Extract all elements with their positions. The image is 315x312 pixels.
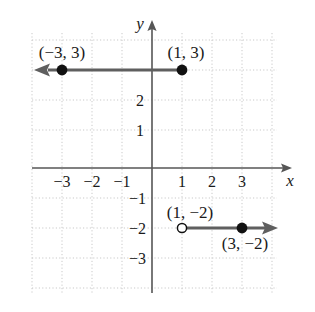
coordinate-plane-figure: x y −3 −2 −1 1 2 3 2 1 −1 −2 −3 (−3, 3) xyxy=(0,0,315,312)
x-tick-label-2: 2 xyxy=(208,173,216,190)
x-axis-label: x xyxy=(285,171,294,190)
x-tick-label-3: 3 xyxy=(238,173,246,190)
point-label-3-neg2: (3, −2) xyxy=(222,234,268,253)
point-label-1-neg2: (1, −2) xyxy=(167,203,213,222)
point-label-neg3-3: (−3, 3) xyxy=(39,43,85,62)
x-tick-label--2: −2 xyxy=(83,173,100,190)
graph-canvas: x y −3 −2 −1 1 2 3 2 1 −1 −2 −3 (−3, 3) xyxy=(0,0,315,312)
y-tick-label--1: −1 xyxy=(129,190,146,207)
closed-point-marker xyxy=(57,65,68,76)
x-tick-label--1: −1 xyxy=(113,173,130,190)
open-point-marker xyxy=(177,223,186,232)
x-tick-label-1: 1 xyxy=(178,173,186,190)
y-tick-label-1: 1 xyxy=(136,122,144,139)
closed-point-marker xyxy=(237,223,248,234)
x-tick-label--3: −3 xyxy=(53,173,70,190)
closed-point-marker xyxy=(177,65,188,76)
point-label-1-3: (1, 3) xyxy=(168,43,205,62)
y-tick-label--2: −2 xyxy=(129,220,146,237)
y-axis-label: y xyxy=(134,14,144,33)
y-tick-label-2: 2 xyxy=(136,92,144,109)
y-tick-label--3: −3 xyxy=(129,250,146,267)
